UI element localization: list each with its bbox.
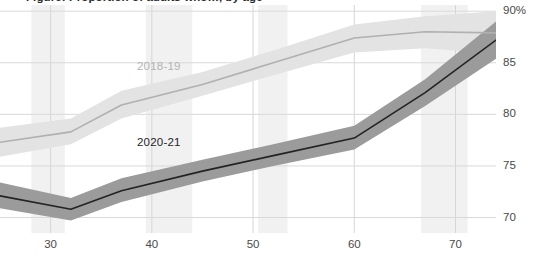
y-tick-label: 70 (503, 211, 516, 223)
chart-root: Figure: Proportion of adults who…, by ag… (0, 0, 544, 266)
y-axis-labels: 7075808590% (503, 0, 544, 266)
y-tick-label: 75 (503, 159, 516, 171)
plot-svg (0, 5, 496, 233)
x-tick-label: 60 (348, 238, 361, 250)
y-tick-label: 90% (503, 4, 526, 16)
y-tick-label: 85 (503, 56, 516, 68)
series-label-2018-19: 2018-19 (137, 60, 181, 72)
plot-area (0, 5, 496, 233)
x-tick-label: 30 (44, 238, 57, 250)
x-tick-label: 70 (449, 238, 462, 250)
chart-title: Figure: Proportion of adults who…, by ag… (26, 0, 263, 3)
x-tick-label: 50 (247, 238, 260, 250)
series-label-2020-21: 2020-21 (137, 136, 181, 148)
x-tick-label: 40 (145, 238, 158, 250)
y-tick-label: 80 (503, 107, 516, 119)
